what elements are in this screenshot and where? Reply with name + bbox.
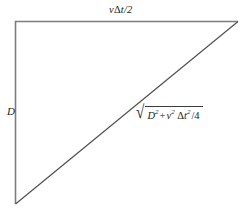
- top-side-label: vΔt/2: [109, 5, 133, 16]
- radical-sign-icon: √: [136, 104, 144, 120]
- hypotenuse-line: [16, 22, 239, 205]
- triangle-diagram: [0, 0, 247, 217]
- top-label-t-over-2: t/2: [121, 4, 133, 15]
- hypotenuse-label: √ D2+v2 Δt2/4: [136, 103, 203, 119]
- term-v-exponent: 2: [171, 108, 175, 116]
- figure-canvas: vΔt/2 D √ D2+v2 Δt2/4: [0, 0, 247, 217]
- top-label-delta: Δ: [114, 4, 121, 15]
- term-delta: Δ: [177, 110, 184, 121]
- radicand-expression: D2+v2 Δt2/4: [145, 106, 202, 121]
- term-d-exponent: 2: [155, 108, 159, 116]
- term-d: D: [147, 110, 155, 121]
- left-side-label: D: [7, 106, 15, 117]
- divided-by-four: /4: [190, 110, 200, 121]
